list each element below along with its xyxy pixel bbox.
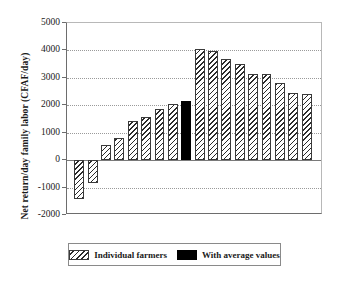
plot-inner [67,23,321,213]
bar [221,59,231,160]
hatched-swatch-icon [69,250,89,260]
bar [155,109,165,160]
bar [128,121,138,160]
bar [248,74,258,160]
bar [288,93,298,160]
y-axis-tick-mark [62,77,66,78]
y-axis-tick-label: 2000 [0,99,60,109]
legend-entry-with-average-values: With average values [177,250,280,260]
legend-label: Individual farmers [94,250,167,260]
y-axis-tick-mark [62,104,66,105]
bar [168,104,178,161]
bar [275,83,285,160]
bar [235,64,245,160]
y-axis-tick-mark [62,214,66,215]
y-axis-tick-label: 5000 [0,17,60,27]
legend-label: With average values [202,250,280,260]
bar [101,145,111,160]
chart-container: Net return/day family labor (CFAF/day) 5… [0,0,342,282]
solid-swatch-icon [177,250,197,260]
bar [262,74,272,160]
bar [208,51,218,160]
bar [74,160,84,198]
y-axis-tick-mark [62,187,66,188]
y-axis-tick-label: 1000 [0,127,60,137]
y-axis-tick-mark [62,159,66,160]
bar [181,101,191,161]
y-axis-tick-label: -2000 [0,209,60,219]
y-axis-tick-mark [62,22,66,23]
chart-legend: Individual farmers With average values [68,243,281,266]
bar [302,94,312,160]
plot-area [66,22,322,214]
bar [141,117,151,160]
y-axis-tick-label: 0 [0,154,60,164]
legend-entry-individual-farmers: Individual farmers [69,250,167,260]
y-axis-tick-label: -1000 [0,182,60,192]
bar [114,138,124,160]
zero-baseline [67,160,321,161]
y-axis-tick-mark [62,132,66,133]
y-axis-tick-label: 3000 [0,72,60,82]
gridline [67,188,321,189]
y-axis-tick-label: 4000 [0,44,60,54]
y-axis-tick-mark [62,49,66,50]
bar [88,160,98,183]
bar [195,49,205,161]
